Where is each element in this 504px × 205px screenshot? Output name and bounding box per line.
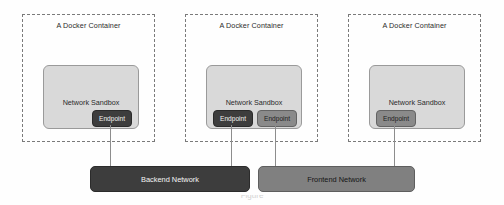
docker-container-3-label: A Docker Container (349, 21, 480, 30)
network-sandbox-3-label: Network Sandbox (370, 98, 464, 107)
connector-endpoint-2-1-to-backend (231, 125, 232, 166)
network-sandbox-2: Network Sandbox Endpoint Endpoint (206, 65, 302, 129)
docker-container-2: A Docker Container Network Sandbox Endpo… (185, 14, 318, 142)
docker-container-2-label: A Docker Container (186, 21, 317, 30)
network-sandbox-1: Network Sandbox Endpoint (43, 65, 139, 129)
figure-caption-cropped: Figure (0, 195, 504, 205)
docker-container-1-label: A Docker Container (23, 21, 154, 30)
endpoint-2-2[interactable]: Endpoint (257, 110, 297, 127)
connector-endpoint-3-1-to-frontend (394, 125, 395, 166)
endpoint-2-1[interactable]: Endpoint (213, 110, 253, 127)
network-sandbox-1-label: Network Sandbox (44, 98, 138, 107)
backend-network-bar[interactable]: Backend Network (90, 166, 250, 192)
diagram-canvas: A Docker Container Network Sandbox Endpo… (0, 0, 504, 205)
connector-endpoint-2-2-to-frontend (275, 125, 276, 166)
docker-container-1: A Docker Container Network Sandbox Endpo… (22, 14, 155, 142)
frontend-network-bar[interactable]: Frontend Network (258, 166, 415, 192)
network-sandbox-3: Network Sandbox Endpoint (369, 65, 465, 129)
endpoint-1-1[interactable]: Endpoint (92, 110, 132, 127)
docker-container-3: A Docker Container Network Sandbox Endpo… (348, 14, 481, 142)
connector-endpoint-1-1-to-backend (110, 125, 111, 166)
figure-caption-text: Figure (0, 195, 504, 200)
endpoint-3-1[interactable]: Endpoint (376, 110, 416, 127)
network-sandbox-2-label: Network Sandbox (207, 98, 301, 107)
